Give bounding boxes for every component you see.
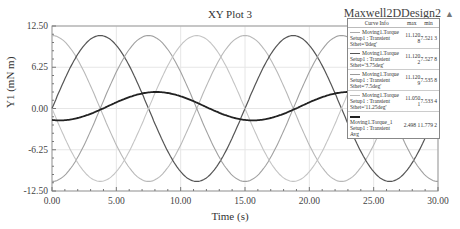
legend-row[interactable]: Moving1.Torque_1Setup1 : TransientAvg2.4… xyxy=(348,112,439,138)
svg-text:0.00: 0.00 xyxy=(31,104,48,114)
y-axis-label: Y1 (mN m) xyxy=(4,57,16,108)
legend-swatch xyxy=(350,74,360,75)
legend-swatch xyxy=(350,53,360,54)
svg-text:25.00: 25.00 xyxy=(363,196,385,206)
svg-text:30.00: 30.00 xyxy=(427,196,449,206)
svg-text:5.00: 5.00 xyxy=(108,196,125,206)
svg-text:-6.25: -6.25 xyxy=(28,145,48,155)
legend-row[interactable]: Moving1.TorqueSetup1 : TransientSthet='1… xyxy=(348,91,439,112)
legend-row[interactable]: Moving1.TorqueSetup1 : TransientSthet='7… xyxy=(348,70,439,91)
x-axis-label: Time (s) xyxy=(0,210,460,222)
legend-header: Curve Info max min xyxy=(348,19,439,28)
svg-text:15.00: 15.00 xyxy=(234,196,256,206)
svg-text:6.25: 6.25 xyxy=(31,62,48,72)
svg-text:20.00: 20.00 xyxy=(299,196,321,206)
legend-row[interactable]: Moving1.TorqueSetup1 : TransientSthet='3… xyxy=(348,49,439,70)
svg-text:0.00: 0.00 xyxy=(44,196,61,206)
legend-row[interactable]: Moving1.TorqueSetup1 : TransientSthet='0… xyxy=(348,28,439,49)
svg-text:12.50: 12.50 xyxy=(27,21,49,31)
legend-swatch xyxy=(350,95,360,96)
legend-swatch xyxy=(350,116,360,118)
svg-text:-12.50: -12.50 xyxy=(23,186,48,196)
legend-swatch xyxy=(350,32,360,33)
legend[interactable]: Curve Info max min Moving1.TorqueSetup1 … xyxy=(347,18,440,139)
svg-text:10.00: 10.00 xyxy=(170,196,192,206)
